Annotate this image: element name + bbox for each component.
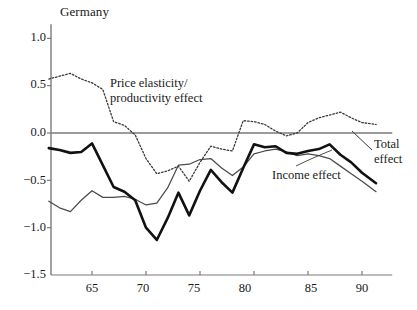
xtick-label-4: 80 — [230, 281, 260, 296]
xtick-label-2: 70 — [128, 281, 158, 296]
xtick-label-1: 65 — [77, 281, 107, 296]
xtick-label-3: 75 — [179, 281, 209, 296]
ytick-label-6: −1.5 — [10, 268, 46, 281]
total-effect-leader — [352, 131, 372, 150]
ytick-label-5: −1.0 — [10, 221, 46, 234]
price-elasticity-line2: productivity effect — [110, 91, 202, 106]
total-effect-annotation: Total effect — [374, 137, 402, 166]
series-line-0 — [49, 73, 376, 181]
total-effect-line2: effect — [374, 152, 402, 167]
axes-group — [47, 24, 392, 275]
ytick-label-2: 0.5 — [10, 78, 46, 91]
ytick-label-4: −0.5 — [10, 174, 46, 187]
series-group — [49, 73, 376, 240]
price-elasticity-annotation: Price elasticity/ productivity effect — [110, 76, 202, 105]
income-effect-annotation: Income effect — [272, 168, 341, 183]
total-effect-line1: Total — [374, 137, 402, 152]
xtick-label-5: 85 — [296, 281, 326, 296]
ytick-label-3: 0.0 — [10, 126, 46, 139]
price-elasticity-line1: Price elasticity/ — [110, 76, 202, 91]
chart-title: Germany — [60, 4, 109, 20]
ytick-label-1: 1.0 — [10, 31, 46, 44]
xtick-label-6: 90 — [347, 281, 377, 296]
plot-area — [0, 0, 417, 310]
chart-figure: Germany 1.0 0.5 0.0 −0.5 −1.0 −1.5 65 70… — [0, 0, 417, 310]
